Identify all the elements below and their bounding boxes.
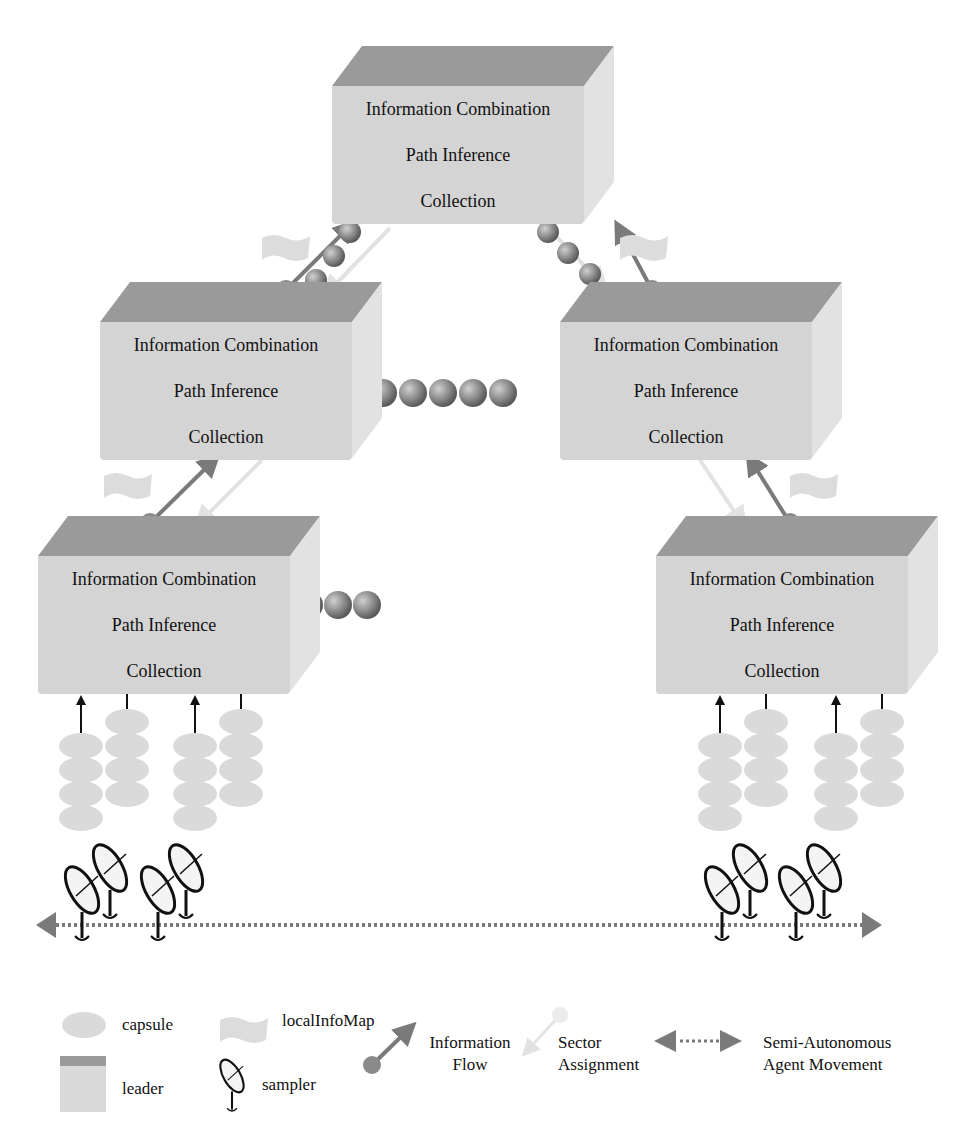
- layer-collection: Collection: [38, 648, 290, 694]
- leader-mid-right: Information Combination Path Inference C…: [560, 282, 842, 458]
- leader-mid-left: Information Combination Path Inference C…: [100, 282, 382, 458]
- layer-information-combination: Information Combination: [332, 86, 584, 133]
- layer-information-combination: Information Combination: [656, 556, 908, 603]
- layer-path-inference: Path Inference: [332, 132, 584, 179]
- legend-info-flow-label: Information Flow: [420, 1032, 520, 1076]
- legend-movement-label: Semi-Autonomous Agent Movement: [763, 1032, 891, 1076]
- legend-leader-label: leader: [122, 1078, 164, 1100]
- layer-information-combination: Information Combination: [560, 322, 812, 369]
- capsule-stacks-right: [698, 690, 904, 831]
- legend-localinfomap-icon: [220, 1017, 268, 1043]
- layer-information-combination: Information Combination: [100, 322, 352, 369]
- legend-movement-icon: [654, 1030, 676, 1052]
- layer-path-inference: Path Inference: [38, 602, 290, 649]
- legend-sector-label: Sector Assignment: [558, 1032, 639, 1076]
- legend-capsule-label: capsule: [122, 1014, 173, 1036]
- layer-path-inference: Path Inference: [100, 368, 352, 415]
- legend-capsule-icon: [62, 1012, 106, 1038]
- capsule-queue-mid: [369, 379, 517, 407]
- layer-path-inference: Path Inference: [656, 602, 908, 649]
- legend-localinfomap-label: localInfoMap: [282, 1010, 375, 1032]
- leader-top: Information Combination Path Inference C…: [332, 46, 614, 222]
- layer-collection: Collection: [656, 648, 908, 694]
- legend-sampler-label: sampler: [262, 1074, 316, 1096]
- capsule-stacks-left: [59, 690, 263, 831]
- leader-bottom-left: Information Combination Path Inference C…: [38, 516, 320, 692]
- leader-bottom-right: Information Combination Path Inference C…: [656, 516, 938, 692]
- move-left-arrow-icon: [36, 912, 56, 938]
- layer-collection: Collection: [100, 414, 352, 460]
- move-right-arrow-icon: [862, 912, 882, 938]
- layer-collection: Collection: [560, 414, 812, 460]
- layer-information-combination: Information Combination: [38, 556, 290, 603]
- layer-path-inference: Path Inference: [560, 368, 812, 415]
- legend-sampler-icon: [216, 1056, 249, 1111]
- layer-collection: Collection: [332, 178, 584, 224]
